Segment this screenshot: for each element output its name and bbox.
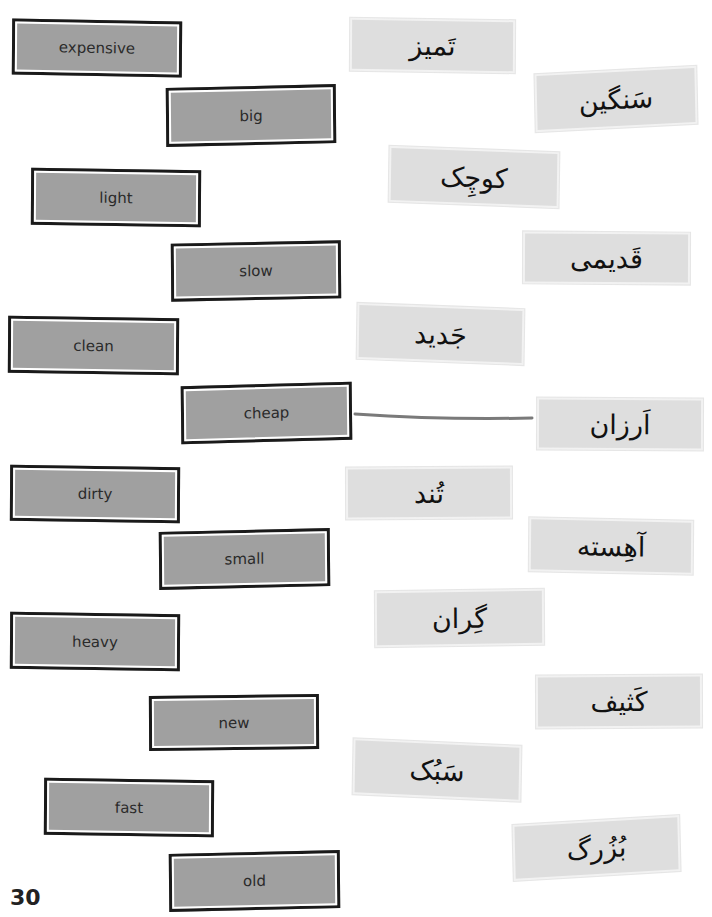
farsi-word-card[interactable]: اَرزان <box>537 397 703 450</box>
english-word-card[interactable]: fast <box>44 778 214 838</box>
farsi-word-label: تَمیز <box>409 30 455 62</box>
english-word-label: light <box>99 188 132 206</box>
english-word-label: slow <box>239 262 273 281</box>
farsi-word-label: تُند <box>414 477 444 508</box>
english-word-label: fast <box>115 798 143 816</box>
farsi-word-label: بُزُرگ <box>566 831 626 866</box>
farsi-word-label: اَرزان <box>590 408 651 439</box>
farsi-word-card[interactable]: سَبُک <box>353 738 522 801</box>
farsi-word-card[interactable]: جَدید <box>357 303 525 365</box>
english-word-label: dirty <box>78 485 113 504</box>
english-word-card[interactable]: small <box>159 528 331 590</box>
english-word-label: new <box>218 713 249 731</box>
english-word-card[interactable]: cheap <box>181 382 353 445</box>
english-word-label: clean <box>73 336 113 355</box>
english-word-card[interactable]: heavy <box>10 612 180 672</box>
farsi-word-label: سَنگین <box>579 82 654 117</box>
farsi-word-label: آهِسته <box>577 530 646 563</box>
farsi-word-card[interactable]: سَنگین <box>534 66 697 132</box>
farsi-word-label: قَدیمی <box>570 242 643 274</box>
farsi-word-card[interactable]: قَدیمی <box>523 231 690 284</box>
farsi-word-card[interactable]: تُند <box>346 466 512 519</box>
farsi-word-card[interactable]: آهِسته <box>529 517 693 575</box>
english-word-label: old <box>243 872 266 891</box>
farsi-word-card[interactable]: کَثیف <box>536 674 702 728</box>
english-word-card[interactable]: big <box>166 84 337 147</box>
english-word-card[interactable]: light <box>31 168 201 228</box>
english-word-label: heavy <box>72 632 118 651</box>
farsi-word-label: گِران <box>432 602 487 634</box>
english-word-card[interactable]: old <box>169 850 341 912</box>
english-word-label: cheap <box>244 403 290 422</box>
farsi-word-card[interactable]: بُزُرگ <box>512 815 680 881</box>
english-word-label: small <box>224 550 264 569</box>
english-word-card[interactable]: dirty <box>10 465 180 524</box>
farsi-word-card[interactable]: کوچِک <box>389 146 560 208</box>
english-word-card[interactable]: clean <box>8 316 179 376</box>
english-word-card[interactable]: new <box>149 694 319 751</box>
english-word-label: expensive <box>59 38 135 57</box>
farsi-word-label: سَبُک <box>409 753 464 786</box>
farsi-word-label: کوچِک <box>440 160 508 194</box>
farsi-word-label: کَثیف <box>590 686 647 717</box>
farsi-word-card[interactable]: تَمیز <box>350 18 515 73</box>
english-word-card[interactable]: slow <box>171 240 341 301</box>
english-word-card[interactable]: expensive <box>12 18 182 77</box>
match-connector-line <box>355 414 532 419</box>
farsi-word-label: جَدید <box>414 318 467 351</box>
farsi-word-card[interactable]: گِران <box>375 589 544 648</box>
english-word-label: big <box>239 106 262 125</box>
page-number: 30 <box>10 885 41 910</box>
